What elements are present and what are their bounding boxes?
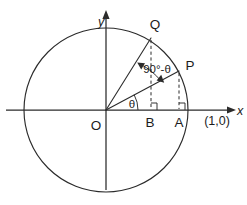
label-origin-O: O <box>91 118 102 133</box>
x-axis-label: x <box>236 104 244 118</box>
right-angle-marker-A <box>179 103 185 110</box>
x-axis-arrowhead-icon <box>227 106 236 113</box>
label-unit-point: (1,0) <box>204 114 230 128</box>
segment-OP <box>106 71 179 110</box>
label-angle-complement: 90°-θ <box>143 63 171 75</box>
y-axis-label: y <box>97 15 105 29</box>
label-foot-B: B <box>145 115 154 130</box>
figure-canvas: y x O Q P B A θ 90°-θ (1,0) <box>0 0 247 205</box>
label-angle-theta: θ <box>129 98 135 110</box>
geometry-figure: y x O Q P B A θ 90°-θ (1,0) <box>0 0 247 205</box>
label-point-Q: Q <box>150 17 161 32</box>
angle-arc-complement-arrowhead-end-icon <box>157 75 165 83</box>
right-angle-marker-B <box>151 103 157 110</box>
label-foot-A: A <box>174 115 183 130</box>
label-point-P: P <box>185 58 194 73</box>
